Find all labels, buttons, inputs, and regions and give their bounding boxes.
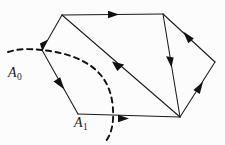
edge-group	[42, 14, 215, 117]
top-right-to-bottom-right-arrowhead	[166, 56, 174, 67]
top-edge-arrowhead	[108, 11, 119, 19]
dashed-curve-A0	[8, 49, 113, 141]
diagram-canvas	[0, 0, 225, 145]
diagram-figure: A0 A1	[0, 0, 225, 145]
label-A0-subscript: 0	[17, 72, 22, 82]
label-A1-base: A	[74, 115, 83, 130]
dashed-curve-group	[8, 49, 113, 141]
label-A0-base: A	[8, 65, 17, 80]
label-A1-subscript: 1	[83, 122, 88, 132]
left-to-bottom-left-arrowhead	[54, 77, 65, 89]
label-A0: A0	[8, 66, 21, 80]
label-A1: A1	[74, 116, 87, 130]
bottom-edge	[78, 114, 180, 117]
bottom-right-to-right-arrowhead	[193, 82, 203, 94]
